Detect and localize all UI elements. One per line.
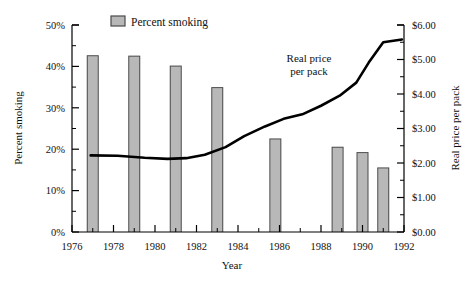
x-tick-label: 1984 xyxy=(228,241,250,252)
real-price-per-pack-label: Real price per pack xyxy=(287,52,332,77)
x-axis-title: Year xyxy=(222,259,243,271)
y-tick-label: 10% xyxy=(46,185,66,196)
bar-fill xyxy=(378,168,388,232)
annotation-line-1: Real price xyxy=(287,52,332,64)
x-tick-label: 1982 xyxy=(186,241,207,252)
y-tick-label: 50% xyxy=(46,20,66,31)
x-tick-label: 1988 xyxy=(311,241,332,252)
x-tick-label: 1986 xyxy=(269,241,290,252)
y2-tick-label: $0.00 xyxy=(412,227,436,238)
legend-label-percent-smoking: Percent smoking xyxy=(131,16,208,29)
y-tick-label: 30% xyxy=(46,103,66,114)
legend-swatch-percent-smoking xyxy=(111,16,125,26)
y-axis-title: Percent smoking xyxy=(12,91,24,165)
bar-fill xyxy=(333,148,343,232)
y2-tick-label: $5.00 xyxy=(412,54,436,65)
y2-tick-label: $1.00 xyxy=(412,192,436,203)
annotation-line-2: per pack xyxy=(290,65,328,77)
bar-fill xyxy=(358,153,368,232)
x-tick-label: 1976 xyxy=(62,241,83,252)
y-tick-label: 0% xyxy=(51,227,65,238)
x-tick-label: 1990 xyxy=(352,241,373,252)
bar-fill xyxy=(88,56,98,232)
bar-fill xyxy=(171,67,181,232)
smoking-price-chart: 0%10%20%30%40%50%$0.00$1.00$2.00$3.00$4.… xyxy=(0,0,472,281)
bar-fill xyxy=(270,139,280,232)
x-tick-label: 1980 xyxy=(145,241,166,252)
y-tick-label: 40% xyxy=(46,61,66,72)
y2-tick-label: $2.00 xyxy=(412,158,436,169)
chart-canvas: 0%10%20%30%40%50%$0.00$1.00$2.00$3.00$4.… xyxy=(0,0,472,281)
y-tick-label: 20% xyxy=(46,144,66,155)
bar-fill xyxy=(129,57,139,232)
y2-tick-label: $4.00 xyxy=(412,89,436,100)
x-tick-label: 1992 xyxy=(394,241,415,252)
x-tick-label: 1978 xyxy=(103,241,124,252)
y2-tick-label: $6.00 xyxy=(412,20,436,31)
bar-fill xyxy=(212,88,222,232)
y2-tick-label: $3.00 xyxy=(412,123,436,134)
y2-axis-title: Real price per pack xyxy=(449,85,461,171)
